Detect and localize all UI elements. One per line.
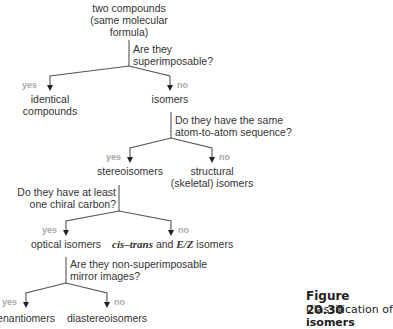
q2-line1: Do they have the same <box>175 114 292 126</box>
node-cis-trans-isomers: cis–trans and E/Z isomers <box>112 238 233 250</box>
q3-line1: Do they have at least <box>4 186 116 198</box>
q4-line1: Are they non-superimposable <box>70 258 207 270</box>
no-label: no <box>219 152 230 162</box>
node-identical-compounds: identical compounds <box>10 93 90 117</box>
node-isomers: isomers <box>140 93 200 105</box>
q3-line2: one chiral carbon? <box>4 198 116 210</box>
ez-text: E/Z <box>176 238 193 250</box>
node-diastereoisomers: diastereoisomers <box>67 312 147 324</box>
root-line2: (same molecular <box>89 14 169 26</box>
identical-line2: compounds <box>10 105 90 117</box>
no-label: no <box>177 80 188 90</box>
node-enantiomers: enantiomers <box>0 312 66 324</box>
caption-line2: isomers <box>306 316 393 329</box>
yes-label: yes <box>22 80 37 90</box>
question-same-sequence: Do they have the same atom-to-atom seque… <box>175 114 292 138</box>
root-node: two compounds (same molecular formula) <box>89 2 169 38</box>
root-line3: formula) <box>89 26 169 38</box>
yes-label: yes <box>42 225 57 235</box>
q1-line1: Are they <box>133 43 213 55</box>
identical-line1: identical <box>10 93 90 105</box>
no-label: no <box>114 297 125 307</box>
question-chiral-carbon: Do they have at least one chiral carbon? <box>4 186 116 210</box>
root-line1: two compounds <box>89 2 169 14</box>
structural-line1: structural <box>167 165 257 177</box>
node-stereoisomers: stereoisomers <box>90 165 170 177</box>
question-superimposable: Are they superimposable? <box>133 43 213 67</box>
and-text: and <box>153 238 176 250</box>
q4-line2: mirror images? <box>70 270 207 282</box>
q1-line2: superimposable? <box>133 55 213 67</box>
yes-label: yes <box>106 152 121 162</box>
yes-label: yes <box>2 297 17 307</box>
caption-line1: Classification of <box>306 303 393 316</box>
figure-caption-text: Classification of isomers <box>306 303 393 329</box>
node-structural-isomers: structural (skeletal) isomers <box>167 165 257 189</box>
isomers-text: isomers <box>193 238 233 250</box>
node-optical-isomers: optical isomers <box>26 238 106 250</box>
question-mirror-images: Are they non-superimposable mirror image… <box>70 258 207 282</box>
cis-trans-text: cis–trans <box>112 238 153 250</box>
q2-line2: atom-to-atom sequence? <box>175 126 292 138</box>
structural-line2: (skeletal) isomers <box>167 177 257 189</box>
no-label: no <box>178 225 189 235</box>
